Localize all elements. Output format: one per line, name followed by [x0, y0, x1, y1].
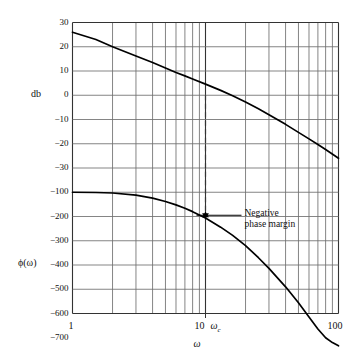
- ytick-db--10: −10: [54, 114, 68, 124]
- ytick-phase-100: −100: [50, 186, 69, 196]
- xtick-1: 1: [69, 320, 74, 331]
- cutoff-omega-subscript: c: [218, 326, 221, 334]
- ytick-phase-600: −600: [50, 308, 69, 318]
- axis-label-db: db: [31, 88, 41, 99]
- xtick-100: 100: [328, 320, 343, 331]
- xtick-10: 10: [195, 320, 205, 331]
- ytick-db--30: −30: [54, 162, 68, 172]
- ytick-phase-500: −500: [50, 283, 69, 293]
- ytick-phase-300: −300: [50, 235, 69, 245]
- ytick-db-30: 30: [60, 17, 69, 27]
- ytick-db-10: 10: [60, 65, 69, 75]
- annotation-line-2: phase margin: [245, 219, 296, 230]
- axis-label-phi: ϕ(ω): [18, 257, 37, 268]
- xtick-cutoff-omega-c: ωc: [211, 320, 221, 334]
- axis-label-omega: ω: [194, 338, 201, 349]
- ytick-phase-200: −200: [50, 211, 69, 221]
- negative-phase-margin-annotation: Negativephase margin: [245, 208, 296, 230]
- bode-plot-figure: 3020100−10−20−30−100−200−300−400−500−600…: [0, 0, 357, 354]
- cutoff-omega-symbol: ω: [211, 320, 218, 331]
- ytick-db-0: 0: [64, 89, 69, 99]
- ytick-phase-400: −400: [50, 259, 69, 269]
- plot-canvas: [0, 0, 357, 354]
- ytick-phase-700: −700: [50, 332, 69, 342]
- ytick-db--20: −20: [54, 138, 68, 148]
- ytick-db-20: 20: [60, 41, 69, 51]
- annotation-line-1: Negative: [245, 208, 296, 219]
